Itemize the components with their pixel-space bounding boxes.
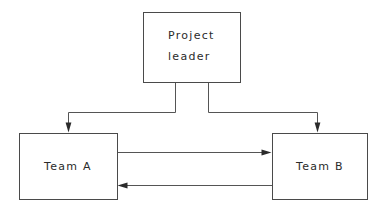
- node-project-leader[interactable]: Project leader: [144, 13, 241, 83]
- node-team-a[interactable]: Team A: [20, 134, 118, 200]
- team-b-label: Team B: [295, 160, 344, 173]
- edge-leader-to-team-b-arrowhead: [315, 123, 321, 133]
- edge-leader-to-team-a-arrowhead: [66, 123, 72, 133]
- edge-leader-to-team-b: [209, 82, 321, 133]
- edge-team-a-to-team-b: [117, 150, 272, 156]
- diagram-canvas: Project leader Team A Team B: [0, 0, 383, 212]
- edge-team-b-to-team-a-arrowhead: [118, 183, 128, 189]
- edge-team-b-to-team-a: [118, 183, 273, 189]
- project-leader-box[interactable]: [144, 13, 241, 83]
- edge-team-a-to-team-b-arrowhead: [262, 150, 272, 156]
- edge-leader-to-team-a-line: [69, 82, 176, 124]
- project-leader-label-line-2: leader: [168, 50, 211, 63]
- edge-leader-to-team-b-line: [209, 82, 318, 124]
- team-a-label: Team A: [43, 160, 92, 173]
- edge-leader-to-team-a: [66, 82, 176, 133]
- node-team-b[interactable]: Team B: [273, 134, 368, 200]
- project-leader-label-line-1: Project: [168, 29, 215, 42]
- organization-diagram: Project leader Team A Team B: [0, 0, 383, 212]
